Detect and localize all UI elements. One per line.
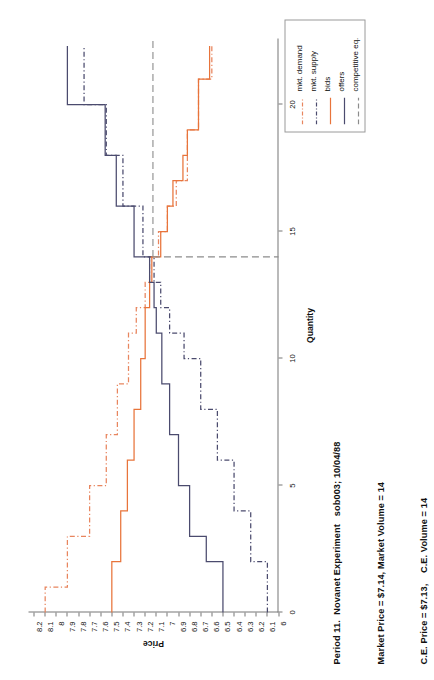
- y-axis-tick-label: 8: [56, 621, 65, 625]
- legend-line-sample-icon: [307, 97, 317, 124]
- plot-area: Quantity Price 0510152066.16.26.36.46.56…: [28, 38, 278, 612]
- x-axis-tick-label: 15: [287, 227, 296, 235]
- y-axis-tick: [133, 612, 134, 616]
- y-axis-tick: [278, 612, 279, 616]
- y-axis-tick-label: 6.8: [190, 621, 199, 632]
- y-axis-tick: [255, 612, 256, 616]
- y-axis-tick: [266, 612, 267, 616]
- series-line-bids: [111, 46, 209, 612]
- legend-item-label: mkt. demand: [294, 45, 303, 91]
- y-axis-tick: [189, 612, 190, 616]
- y-axis-tick-label: 7.3: [134, 621, 143, 632]
- y-axis-tick: [122, 612, 123, 616]
- plot-inner: Quantity Price 0510152066.16.26.36.46.56…: [28, 38, 278, 612]
- x-axis-tick: [278, 230, 282, 231]
- x-axis-tick: [278, 103, 282, 104]
- series-line-mkt-demand: [45, 46, 212, 612]
- x-axis-tick-label: 0: [287, 610, 296, 614]
- y-axis-tick-label: 7.7: [90, 621, 99, 632]
- y-axis-tick-label: 6.1: [267, 621, 276, 632]
- y-axis-tick-label: 6.4: [234, 621, 243, 632]
- y-axis-tick: [155, 612, 156, 616]
- y-axis-tick: [166, 612, 167, 616]
- legend-line-sample-icon: [321, 97, 331, 124]
- series-layer: [28, 38, 278, 612]
- y-axis-tick-label: 7.9: [67, 621, 76, 632]
- y-axis-tick: [55, 612, 56, 616]
- x-axis-tick-label: 10: [287, 354, 296, 362]
- series-line-mkt-supply: [84, 46, 267, 612]
- title-line-2: Market Price = $7.14, Market Volume = 14: [373, 441, 388, 664]
- y-axis-tick: [144, 612, 145, 616]
- title-line-1: Period 11. Novanet Experiment sob003; 10…: [329, 441, 344, 664]
- y-axis-tick: [211, 612, 212, 616]
- y-axis-tick-label: 8.1: [45, 621, 54, 632]
- y-axis-tick-label: 7: [167, 621, 176, 625]
- y-axis-tick: [44, 612, 45, 616]
- y-axis-tick-label: 7.1: [156, 621, 165, 632]
- y-axis-tick: [78, 612, 79, 616]
- y-axis-tick-label: 7.6: [101, 621, 110, 632]
- y-axis-title: Price: [142, 638, 163, 648]
- title-line-3: C.E. Price = $7.13, C.E. Volume = 14: [416, 441, 431, 664]
- legend-item-mkt-demand[interactable]: mkt. demand: [291, 27, 305, 124]
- legend-item-offers[interactable]: offers: [333, 27, 347, 124]
- y-axis-tick: [89, 612, 90, 616]
- y-axis-tick: [200, 612, 201, 616]
- y-axis-tick-label: 7.8: [79, 621, 88, 632]
- x-axis-tick-label: 20: [287, 100, 296, 108]
- chart-legend: mkt. demandmkt. supplybidsofferscompetit…: [284, 19, 365, 132]
- y-axis-tick-label: 6.6: [212, 621, 221, 632]
- y-axis-tick-label: 6.7: [201, 621, 210, 632]
- x-axis-tick: [278, 484, 282, 485]
- y-axis-tick-label: 7.4: [123, 621, 132, 632]
- legend-item-bids[interactable]: bids: [319, 27, 333, 124]
- y-axis-tick: [222, 612, 223, 616]
- x-axis-tick: [278, 357, 282, 358]
- legend-line-sample-icon: [349, 97, 359, 124]
- y-axis-tick: [244, 612, 245, 616]
- chart-title-block: Period 11. Novanet Experiment sob003; 10…: [300, 441, 434, 664]
- legend-item-label: mkt. supply: [308, 51, 317, 91]
- y-axis-tick: [178, 612, 179, 616]
- legend-item-label: competitive eq.: [350, 37, 359, 91]
- y-axis-tick-label: 6.5: [223, 621, 232, 632]
- legend-item-competitive-eq[interactable]: competitive eq.: [347, 27, 361, 124]
- y-axis-tick-label: 7.5: [112, 621, 121, 632]
- legend-item-label: bids: [322, 76, 331, 91]
- legend-line-sample-icon: [335, 97, 345, 124]
- x-axis-tick-label: 5: [287, 483, 296, 487]
- y-axis-tick: [233, 612, 234, 616]
- y-axis-tick-label: 6.9: [179, 621, 188, 632]
- legend-item-label: offers: [336, 71, 345, 91]
- y-axis-tick-label: 7.2: [145, 621, 154, 632]
- y-axis-tick: [100, 612, 101, 616]
- y-axis-tick-label: 6: [279, 621, 288, 625]
- y-axis-tick-label: 8.2: [34, 621, 43, 632]
- y-axis-tick: [66, 612, 67, 616]
- x-axis-title: Quantity: [304, 308, 314, 343]
- y-axis-tick-label: 6.3: [245, 621, 254, 632]
- y-axis-tick-label: 6.2: [256, 621, 265, 632]
- legend-item-mkt-supply[interactable]: mkt. supply: [305, 27, 319, 124]
- y-axis-tick: [111, 612, 112, 616]
- y-axis-tick: [33, 612, 34, 616]
